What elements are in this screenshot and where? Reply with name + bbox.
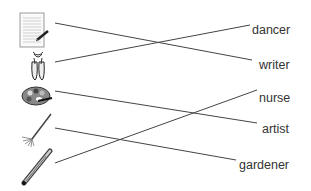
line-thermometer-nurse [55, 90, 257, 163]
rake-icon [20, 113, 54, 149]
paint-palette-icon [20, 85, 54, 109]
word-writer: writer [259, 58, 290, 72]
word-dancer: dancer [252, 23, 290, 37]
line-paper-writer [55, 23, 252, 60]
word-gardener: gardener [239, 158, 289, 172]
line-shoes-dancer [55, 25, 250, 62]
line-palette-artist [55, 91, 257, 123]
word-nurse: nurse [259, 91, 290, 105]
ballet-shoes-icon [28, 50, 48, 82]
line-rake-gardener [55, 128, 236, 160]
word-artist: artist [262, 122, 289, 136]
thermometer-icon [20, 148, 54, 186]
writing-paper-icon [19, 12, 53, 50]
